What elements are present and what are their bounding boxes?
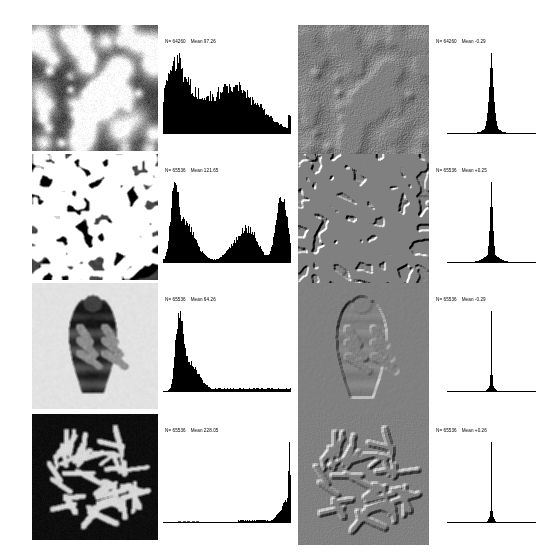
histogram-mean-label: Mean 121.65 xyxy=(191,168,219,173)
louse-image xyxy=(32,283,158,409)
histogram-stats-label: N= 64260Mean -0.29 xyxy=(436,39,489,44)
histogram-n-label: N= 65536 xyxy=(436,428,457,433)
histogram-stats-label: N= 65536Mean 64.26 xyxy=(165,297,219,302)
histogram-n-label: N= 65536 xyxy=(165,297,186,302)
figure-row-row-microstructure: N= 65536Mean 121.65N= 65536Mean +0.25 xyxy=(0,154,543,284)
histogram-original-row1 xyxy=(163,43,291,135)
histogram-stats-label: N= 65536Mean 228.05 xyxy=(165,428,221,433)
histogram-n-label: N= 65536 xyxy=(436,168,457,173)
louse-difference-image xyxy=(298,283,429,414)
histogram-stats-label: N= 65536Mean +0.26 xyxy=(436,428,490,433)
histogram-filtered-row1 xyxy=(447,43,536,135)
microstructure-image xyxy=(32,154,158,280)
histogram-n-label: N= 65536 xyxy=(436,297,457,302)
histogram-n-label: N= 65536 xyxy=(165,168,186,173)
chromosome-image xyxy=(32,414,158,540)
microstructure-difference-image xyxy=(298,154,429,285)
histogram-stats-label: N= 65536Mean -0.29 xyxy=(436,297,489,302)
histogram-filtered-row4 xyxy=(447,432,536,524)
histogram-mean-label: Mean 228.05 xyxy=(191,428,219,433)
histogram-stats-label: N= 64260Mean 97.26 xyxy=(165,39,219,44)
histogram-n-label: N= 64260 xyxy=(436,39,457,44)
histogram-mean-label: Mean 64.26 xyxy=(191,297,216,302)
histogram-n-label: N= 64260 xyxy=(165,39,186,44)
histogram-stats-label: N= 65536Mean 121.65 xyxy=(165,168,221,173)
bubble-cluster-image xyxy=(32,25,158,151)
histogram-original-row2 xyxy=(163,172,291,264)
figure-row-row-bubbles: N= 64260Mean 97.26N= 64260Mean -0.29 xyxy=(0,25,543,155)
histogram-comparison-figure: N= 64260Mean 97.26N= 64260Mean -0.29N= 6… xyxy=(0,0,543,557)
chromosome-difference-image xyxy=(298,414,429,545)
histogram-mean-label: Mean -0.29 xyxy=(462,39,486,44)
histogram-original-row3 xyxy=(163,301,291,393)
histogram-original-row4 xyxy=(163,432,291,524)
bubble-cluster-difference-image xyxy=(298,25,429,156)
histogram-filtered-row2 xyxy=(447,172,536,264)
histogram-mean-label: Mean -0.29 xyxy=(462,297,486,302)
histogram-n-label: N= 65536 xyxy=(165,428,186,433)
figure-row-row-louse: N= 65536Mean 64.26N= 65536Mean -0.29 xyxy=(0,283,543,413)
histogram-mean-label: Mean +0.25 xyxy=(462,168,487,173)
figure-row-row-chromosomes: N= 65536Mean 228.05N= 65536Mean +0.26 xyxy=(0,414,543,544)
histogram-mean-label: Mean 97.26 xyxy=(191,39,216,44)
histogram-mean-label: Mean +0.26 xyxy=(462,428,487,433)
histogram-filtered-row3 xyxy=(447,301,536,393)
histogram-stats-label: N= 65536Mean +0.25 xyxy=(436,168,490,173)
